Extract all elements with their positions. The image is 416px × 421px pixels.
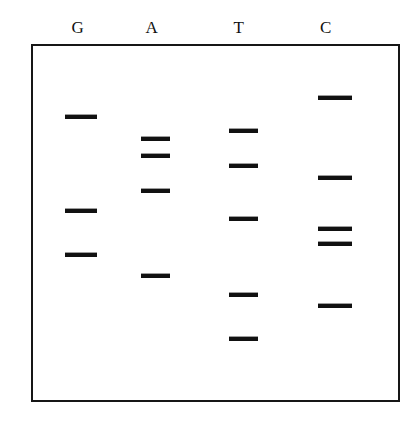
sequencing-gel-figure: G A T C [0,0,416,421]
gel-band-c-5 [318,304,352,308]
lane-label-g: G [58,18,98,38]
gel-band-a-3 [141,189,170,193]
gel-band-t-3 [229,217,258,221]
gel-band-a-1 [141,137,170,141]
gel-band-c-3 [318,227,352,231]
gel-lane-a [125,46,185,400]
lane-label-c: C [306,18,346,38]
gel-band-c-2 [318,176,352,180]
gel-band-t-1 [229,129,258,133]
gel-band-c-4 [318,242,352,246]
gel-lane-g [51,46,111,400]
gel-band-c-1 [318,96,352,100]
gel-lane-t [213,46,273,400]
gel-band-t-2 [229,164,258,168]
gel-plate-border [31,44,400,402]
gel-band-g-3 [65,253,97,257]
gel-band-a-2 [141,154,170,158]
gel-band-g-1 [65,115,97,119]
gel-band-g-2 [65,209,97,213]
gel-band-t-5 [229,337,258,341]
lane-label-row: G A T C [0,18,416,42]
lane-label-a: A [132,18,172,38]
lane-label-t: T [219,18,259,38]
gel-band-t-4 [229,293,258,297]
gel-band-a-4 [141,274,170,278]
